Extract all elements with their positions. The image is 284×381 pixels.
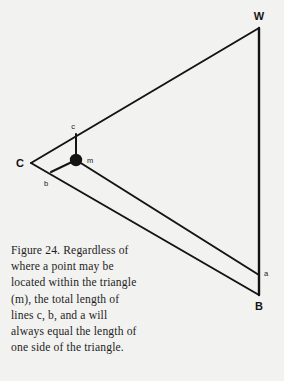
caption-line: located within the triangle bbox=[11, 275, 183, 291]
figure-caption: Figure 24. Regardless of where a point m… bbox=[11, 243, 183, 356]
vertex-label-w: W bbox=[254, 10, 265, 22]
triangle-side-cw bbox=[31, 28, 259, 163]
caption-line: Figure 24. Regardless of bbox=[11, 243, 183, 259]
caption-line: where a point may be bbox=[11, 259, 183, 275]
interior-point-m bbox=[70, 154, 82, 166]
figure-container: C W B c b a m Figure 24. Regardless of w… bbox=[0, 0, 284, 381]
caption-line: (m), the total length of bbox=[11, 292, 183, 308]
caption-line: lines c, b, and a will bbox=[11, 308, 183, 324]
vertex-label-b: B bbox=[255, 300, 263, 312]
segment-label-a: a bbox=[264, 269, 269, 278]
vertex-label-c: C bbox=[16, 157, 24, 169]
segment-label-b: b bbox=[44, 179, 48, 188]
caption-line: always equal the length of bbox=[11, 324, 183, 340]
caption-line: one side of the triangle. bbox=[11, 340, 183, 356]
segment-label-c: c bbox=[71, 122, 75, 131]
interior-point-label-m: m bbox=[87, 156, 93, 165]
